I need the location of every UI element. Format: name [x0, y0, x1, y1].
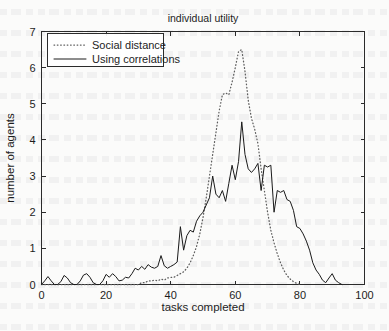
y-tick-label: 0 [29, 279, 35, 291]
y-tick-label: 2 [29, 206, 35, 218]
x-tick-label: 100 [355, 289, 373, 301]
legend-label-using-correlations: Using correlations [92, 53, 181, 65]
series-line-using-correlations [42, 122, 342, 285]
plot-axes-frame [42, 32, 365, 285]
x-tick-label: 20 [100, 289, 112, 301]
y-tick-label: 7 [29, 26, 35, 38]
y-axis-label: number of agents [4, 113, 16, 203]
y-tick-label: 6 [29, 62, 35, 74]
x-tick-label: 60 [229, 289, 241, 301]
y-tick-label: 4 [29, 134, 35, 146]
x-tick-label: 80 [294, 289, 306, 301]
legend-label-social-distance: Social distance [92, 39, 166, 51]
x-tick-label: 40 [165, 289, 177, 301]
x-tick-label: 0 [38, 289, 44, 301]
chart-title: individual utility [168, 12, 239, 24]
series-line-social-distance [42, 50, 300, 285]
chart-legend[interactable]: Social distance Using correlations [48, 34, 181, 67]
chart-figure: individual utility 020406080100 01234567… [0, 0, 389, 331]
x-axis-ticks: 020406080100 [38, 32, 373, 301]
y-tick-label: 1 [29, 242, 35, 254]
x-axis-label: tasks completed [161, 301, 244, 313]
y-tick-label: 3 [29, 170, 35, 182]
individual-utility-line-chart: individual utility 020406080100 01234567… [0, 0, 389, 331]
y-tick-label: 5 [29, 98, 35, 110]
